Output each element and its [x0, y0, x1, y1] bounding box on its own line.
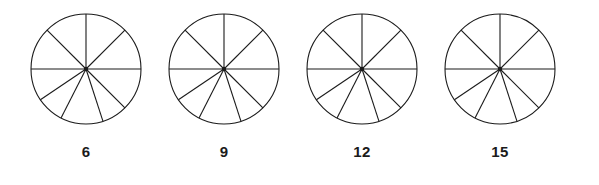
circle-center-dot — [498, 67, 502, 71]
sector-radius-line — [323, 30, 362, 69]
sector-radius-line — [178, 69, 224, 100]
figure-label: 6 — [82, 144, 91, 159]
circle-center-dot — [222, 67, 226, 71]
circle-diagram-6 — [27, 6, 145, 132]
circle-diagram-9 — [165, 6, 283, 132]
sectored-circle — [303, 6, 421, 132]
figure-cell: 6 — [17, 0, 155, 185]
sectored-circle — [27, 6, 145, 132]
figure-label: 12 — [353, 144, 370, 159]
sector-radius-line — [47, 30, 86, 69]
worksheet-canvas: 691215 — [0, 0, 599, 185]
figure-cell: 9 — [155, 0, 293, 185]
sector-radius-line — [500, 30, 539, 69]
sector-radius-line — [86, 30, 125, 69]
sector-radius-line — [224, 30, 263, 69]
circle-center-dot — [360, 67, 364, 71]
circle-center-dot — [84, 67, 88, 71]
sectored-circle — [441, 6, 559, 132]
sector-radius-line — [337, 69, 362, 118]
circle-diagram-15 — [441, 6, 559, 132]
sector-radius-line — [316, 69, 362, 100]
sector-radius-line — [40, 69, 86, 100]
figure-label: 9 — [220, 144, 229, 159]
figure-label: 15 — [491, 144, 508, 159]
figure-row: 691215 — [0, 0, 599, 185]
figure-cell: 12 — [293, 0, 431, 185]
sector-radius-line — [461, 30, 500, 69]
sector-radius-line — [475, 69, 500, 118]
circle-diagram-12 — [303, 6, 421, 132]
sector-radius-line — [362, 30, 401, 69]
sector-radius-line — [454, 69, 500, 100]
sectored-circle — [165, 6, 283, 132]
sector-radius-line — [61, 69, 86, 118]
sector-radius-line — [199, 69, 224, 118]
figure-cell: 15 — [431, 0, 569, 185]
sector-radius-line — [185, 30, 224, 69]
